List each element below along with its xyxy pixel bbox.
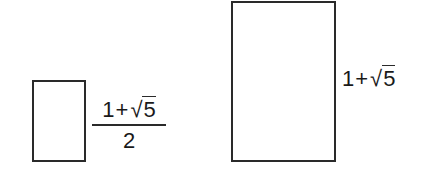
large-rectangle: [231, 1, 336, 162]
small-rectangle: [32, 80, 86, 162]
radical-sign-icon: √: [130, 97, 142, 122]
square-root: √5: [370, 68, 395, 90]
label-one: 1: [342, 66, 354, 91]
radical-sign-icon: √: [370, 66, 382, 91]
small-rectangle-label-fraction: 1+√5 2: [92, 98, 166, 152]
large-rectangle-label: 1+√5: [342, 68, 395, 90]
square-root: √5: [130, 98, 155, 122]
numerator-plus: +: [116, 97, 129, 122]
fraction-bar: [92, 124, 166, 126]
fraction-denominator: 2: [92, 130, 166, 152]
radicand: 5: [142, 96, 155, 122]
numerator-one: 1: [102, 97, 114, 122]
fraction-numerator: 1+√5: [92, 98, 166, 122]
label-plus: +: [355, 66, 368, 91]
radicand: 5: [382, 65, 395, 91]
